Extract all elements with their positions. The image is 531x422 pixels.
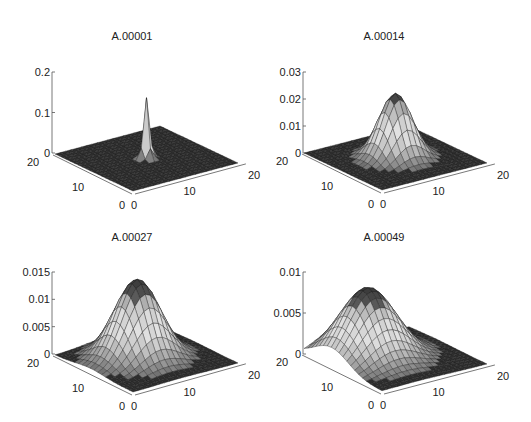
panel-1-y-tick: 10 [72, 181, 84, 193]
panel-1-z-tick: 0.2 [35, 66, 50, 78]
panel-1-x-tick: 10 [184, 185, 196, 197]
panel-2-z-tick: 0.01 [280, 120, 301, 132]
panel-4-title: A.00049 [364, 231, 405, 243]
panel-2-x-tick: 20 [497, 169, 509, 181]
panel-1-y-tick: 0 [119, 199, 125, 211]
panel-4-x-tick: 10 [433, 386, 445, 398]
panel-3-y-tick: 10 [72, 382, 84, 394]
panel-2-title: A.00014 [364, 30, 405, 42]
panel-4-y-tick: 20 [276, 356, 288, 368]
panel-1-x-tick: 0 [131, 199, 137, 211]
panel-4-plot [302, 272, 495, 394]
panel-1-y-tick: 20 [27, 156, 39, 168]
panel-2-z-tick: 0 [295, 147, 301, 159]
panel-2-y-tick: 0 [368, 198, 374, 210]
panel-2-x-tick: 10 [433, 185, 445, 197]
panel-4-x-tick: 20 [497, 370, 509, 382]
panel-3-plot [52, 272, 246, 395]
figure-canvas [0, 0, 531, 422]
panel-1-plot [52, 72, 246, 194]
panel-3-x-tick: 10 [184, 386, 196, 398]
panel-1-title: A.00001 [112, 30, 153, 42]
panel-3-y-tick: 0 [119, 400, 125, 412]
panel-3-z-tick: 0.015 [22, 266, 50, 278]
panel-3-x-tick: 0 [131, 400, 137, 412]
panel-4-z-tick: 0.005 [273, 307, 301, 319]
panel-2-z-tick: 0.02 [280, 93, 301, 105]
panel-1-z-tick: 0 [44, 147, 50, 159]
panel-4-x-tick: 0 [380, 399, 386, 411]
panel-3-z-tick: 0.01 [29, 293, 50, 305]
panel-1-z-tick: 0.1 [35, 107, 50, 119]
panel-3-x-tick: 20 [248, 369, 260, 381]
panel-2-x-tick: 0 [380, 198, 386, 210]
panel-2-plot [302, 72, 495, 193]
panel-3-z-tick: 0 [44, 348, 50, 360]
panel-3-title: A.00027 [112, 231, 153, 243]
panel-4-y-tick: 0 [368, 399, 374, 411]
panel-4-z-tick: 0 [295, 348, 301, 360]
panel-3-z-tick: 0.005 [22, 321, 50, 333]
panel-4-z-tick: 0.01 [280, 266, 301, 278]
panel-2-y-tick: 20 [276, 155, 288, 167]
panel-4-y-tick: 10 [321, 381, 333, 393]
panel-2-z-tick: 0.03 [280, 66, 301, 78]
panel-1-x-tick: 20 [248, 169, 260, 181]
panel-2-y-tick: 10 [321, 180, 333, 192]
panel-3-y-tick: 20 [27, 357, 39, 369]
